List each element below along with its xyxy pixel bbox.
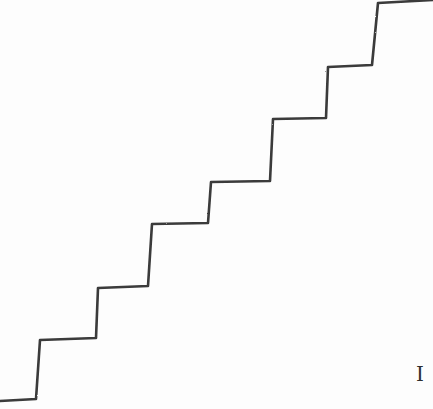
staircase-line	[0, 0, 433, 401]
sketch-canvas: I	[0, 0, 433, 409]
corner-letter-mark: I	[416, 364, 424, 384]
staircase-drawing	[0, 0, 433, 409]
